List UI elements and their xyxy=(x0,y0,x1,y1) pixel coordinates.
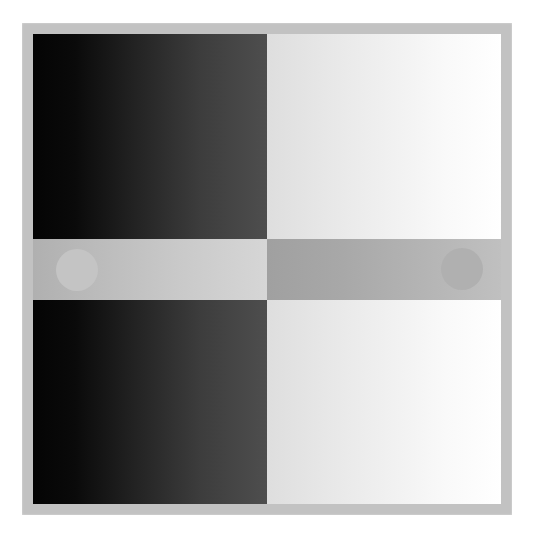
bottom-left-panel xyxy=(33,300,267,504)
left-circle-patch xyxy=(56,249,98,291)
center-band-right xyxy=(267,239,501,300)
test-chart-canvas xyxy=(0,0,533,541)
chart-content-area xyxy=(33,34,501,504)
center-band-left xyxy=(33,239,267,300)
center-band xyxy=(33,239,501,300)
top-right-panel xyxy=(267,34,501,239)
border-frame xyxy=(22,23,512,515)
right-circle-patch xyxy=(441,248,483,290)
bottom-right-panel xyxy=(267,300,501,504)
top-left-panel xyxy=(33,34,267,239)
